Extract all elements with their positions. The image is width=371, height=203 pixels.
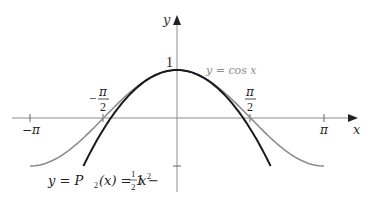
p2-curve-label-sub: 2: [94, 181, 98, 190]
x-tick-label-neg-half-pi-den: 2: [100, 100, 106, 114]
x-tick-label-half-pi-den: 2: [247, 100, 253, 114]
x-tick-label-neg-half-pi-num: π: [98, 85, 108, 99]
taylor-polynomial-chart: y x 1 −π π − π 2 π 2 y = cos x y = P 2 (…: [0, 0, 371, 203]
x-axis-arrow-icon: [348, 114, 358, 122]
p2-half-den: 2: [131, 182, 136, 192]
cos-curve-label: y = cos x: [205, 64, 257, 77]
x-tick-label-neg-pi: −π: [22, 123, 41, 137]
y-tick-label-one: 1: [166, 55, 173, 70]
p2-curve-label-x: x: [139, 173, 147, 188]
p2-curve-label-prefix: y = P: [47, 173, 84, 188]
p2-half-num: 1: [131, 169, 136, 179]
y-axis-arrow-icon: [173, 15, 181, 25]
x-tick-label-half-pi-num: π: [245, 85, 255, 99]
x-tick-label-neg-half-pi-minus: −: [89, 91, 96, 106]
x-axis-label: x: [353, 122, 361, 137]
x-tick-label-pi: π: [319, 123, 329, 137]
y-axis-label: y: [162, 12, 171, 27]
p2-curve-label-exp: 2: [147, 172, 151, 181]
